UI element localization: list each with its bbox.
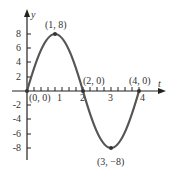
annotation-min: (3, −8) [97, 156, 124, 168]
y-tick-label: -4 [13, 113, 21, 124]
y-axis-arrow-icon [24, 9, 30, 17]
annotation-max: (1, 8) [45, 19, 67, 31]
point-min [109, 146, 113, 150]
point-zero-2 [81, 89, 85, 93]
y-tick-label: 2 [16, 71, 21, 82]
y-axis-label: y [30, 9, 36, 20]
annotation-zero-4: (4, 0) [129, 75, 151, 87]
x-tick-label: 1 [57, 92, 62, 103]
x-tick-label: 3 [108, 92, 113, 103]
y-tick-label: 8 [16, 28, 21, 39]
y-tick-label: -2 [13, 99, 21, 110]
point-max [53, 32, 57, 36]
annotation-zero-2: (2, 0) [83, 75, 105, 87]
point-zero-4 [137, 89, 141, 93]
y-tick-label: -8 [13, 142, 21, 153]
sine-chart: y t 8 6 4 2 -2 -4 -6 -8 [0, 0, 170, 174]
y-tick-label: -6 [13, 128, 21, 139]
y-tick-label: 6 [16, 42, 21, 53]
annotation-origin: (0, 0) [29, 92, 51, 104]
x-tick-labels: 1 2 3 4 [57, 92, 145, 103]
y-tick-label: 4 [16, 56, 21, 67]
x-tick-label: 4 [140, 92, 145, 103]
x-axis-label: t [158, 78, 161, 89]
